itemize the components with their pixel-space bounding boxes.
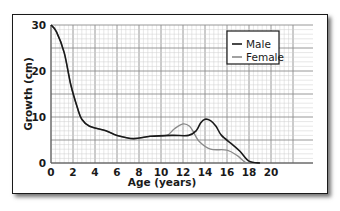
y-tick-label: 0 [39,157,46,169]
x-tick-label: 16 [220,166,235,178]
legend-female-label: Female [246,51,284,63]
x-tick-label: 0 [47,166,54,178]
x-tick-label: 4 [91,166,98,178]
x-tick-label: 2 [69,166,76,178]
chart-legend: Male Female [227,31,284,64]
x-tick-label: 20 [264,166,279,178]
x-tick-label: 18 [242,166,257,178]
y-tick-label: 30 [31,19,46,31]
x-tick-label: 14 [198,166,213,178]
x-tick-label: 6 [113,166,120,178]
growth-chart: 0102030 02468101214161820 Age (years) Gr… [0,0,340,211]
x-axis-label: Age (years) [128,176,197,188]
y-axis-label: Growth (cm) [22,57,34,131]
legend-male-label: Male [246,38,271,50]
